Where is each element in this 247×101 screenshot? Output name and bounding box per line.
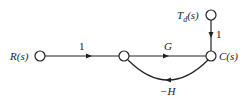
node-m: [119, 51, 129, 61]
branch-feedback-c-to-m: [128, 60, 208, 80]
gain-td-to-c: 1: [216, 28, 222, 40]
arrow-icon: [165, 78, 171, 83]
arrow-icon: [209, 32, 214, 38]
arrow-icon: [163, 54, 169, 59]
gain-feedback: −H: [160, 85, 176, 97]
signal-flow-graph: R(s) C(s) Td(s) 1 G 1 −H: [0, 0, 247, 101]
node-c: [206, 51, 216, 61]
node-r: [35, 51, 45, 61]
arrow-icon: [86, 54, 92, 59]
node-td: [206, 10, 216, 20]
label-td: Td(s): [177, 9, 199, 24]
label-r: R(s): [9, 50, 29, 63]
gain-r-to-m: 1: [79, 40, 85, 52]
label-c: C(s): [219, 50, 238, 63]
gain-m-to-c: G: [164, 40, 172, 52]
